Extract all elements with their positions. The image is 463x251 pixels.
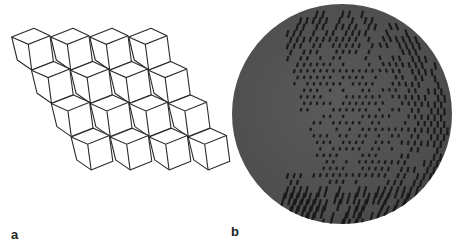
- cube-stack-diagram: [12, 28, 230, 170]
- cube: [110, 128, 152, 170]
- panel-label-a: a: [11, 228, 18, 241]
- cube: [149, 128, 191, 170]
- voxel-sphere: [232, 4, 452, 233]
- cube: [71, 128, 113, 170]
- cube: [188, 128, 230, 170]
- panel-label-b: b: [231, 225, 239, 238]
- figure-canvas: [0, 0, 463, 251]
